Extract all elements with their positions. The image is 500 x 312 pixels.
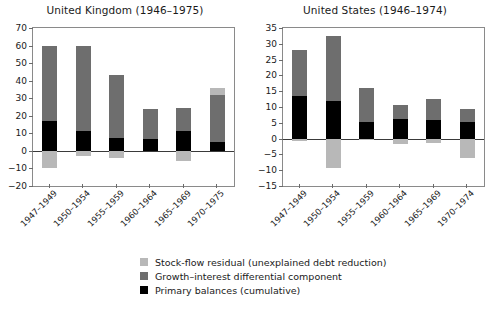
y-axis-tick: [29, 98, 33, 99]
bar-segment-stock-flow-residual[interactable]: [210, 88, 225, 95]
zero-baseline: [33, 151, 234, 152]
x-axis-tick: [149, 184, 150, 188]
y-axis-tick: [29, 46, 33, 47]
bar-segment-primary-balances[interactable]: [42, 121, 57, 151]
y-axis-tick-label: 35: [266, 23, 277, 33]
bar-segment-stock-flow-residual[interactable]: [76, 151, 91, 156]
chart-panel-united-states: United States (1946–1974) 35302520151050…: [250, 0, 500, 250]
bar-segment-growth-interest[interactable]: [460, 109, 475, 121]
bar-group[interactable]: [143, 28, 158, 186]
zero-baseline: [283, 139, 484, 140]
y-axis-tick-label: −15: [258, 181, 277, 191]
bar-group[interactable]: [109, 28, 124, 186]
y-axis-tick: [279, 154, 283, 155]
bar-segment-stock-flow-residual[interactable]: [426, 139, 441, 144]
y-axis-tick-label: 0: [21, 146, 27, 156]
y-axis-tick: [29, 63, 33, 64]
y-axis-tick-label: 50: [16, 58, 27, 68]
bar-segment-primary-balances[interactable]: [393, 119, 408, 138]
bar-segment-primary-balances[interactable]: [210, 142, 225, 151]
bar-segment-primary-balances[interactable]: [176, 131, 191, 151]
x-axis-tick: [82, 184, 83, 188]
bar-group[interactable]: [393, 28, 408, 186]
legend-item-primary[interactable]: Primary balances (cumulative): [140, 283, 470, 297]
y-axis-tick: [29, 133, 33, 134]
panel-title-united-states: United States (1946–1974): [250, 4, 500, 16]
y-axis-tick-label: 5: [271, 118, 277, 128]
x-axis-tick: [466, 184, 467, 188]
bar-group[interactable]: [426, 28, 441, 186]
bar-group[interactable]: [326, 28, 341, 186]
y-axis-tick: [279, 75, 283, 76]
bar-segment-primary-balances[interactable]: [143, 139, 158, 151]
bar-segment-growth-interest[interactable]: [393, 105, 408, 120]
x-axis-labels-united-kingdom: 1947–19491950–19541955–19591960–19641965…: [32, 188, 235, 248]
y-axis-tick-label: −10: [258, 165, 277, 175]
legend-item-residual[interactable]: Stock-flow residual (unexplained debt re…: [140, 255, 470, 269]
y-axis-tick-label: 10: [266, 102, 277, 112]
y-axis-tick: [279, 186, 283, 187]
x-axis-tick: [116, 184, 117, 188]
y-axis-tick: [279, 123, 283, 124]
bar-segment-growth-interest[interactable]: [326, 36, 341, 101]
bar-segment-growth-interest[interactable]: [143, 109, 158, 139]
bar-segment-stock-flow-residual[interactable]: [292, 139, 307, 142]
bar-group[interactable]: [460, 28, 475, 186]
bar-group[interactable]: [176, 28, 191, 186]
bar-segment-stock-flow-residual[interactable]: [326, 139, 341, 169]
y-axis-tick-label: −5: [264, 149, 277, 159]
x-axis-tick: [216, 184, 217, 188]
bar-segment-stock-flow-residual[interactable]: [176, 151, 191, 162]
bar-segment-growth-interest[interactable]: [210, 95, 225, 142]
figure-stacked-bar-charts: United Kingdom (1946–1975) 7060504030201…: [0, 0, 500, 312]
x-axis-tick: [399, 184, 400, 188]
bar-segment-primary-balances[interactable]: [326, 101, 341, 139]
y-axis-tick: [29, 116, 33, 117]
y-axis-tick-label: −20: [8, 181, 27, 191]
bar-group[interactable]: [210, 28, 225, 186]
legend-label-residual: Stock-flow residual (unexplained debt re…: [155, 257, 386, 268]
bar-group[interactable]: [359, 28, 374, 186]
bar-segment-growth-interest[interactable]: [42, 46, 57, 121]
y-axis-tick: [29, 81, 33, 82]
bar-segment-stock-flow-residual[interactable]: [460, 139, 475, 158]
y-axis-tick: [279, 60, 283, 61]
bar-segment-primary-balances[interactable]: [76, 131, 91, 151]
bar-segment-primary-balances[interactable]: [460, 122, 475, 139]
y-axis-tick: [29, 28, 33, 29]
x-axis-tick: [183, 184, 184, 188]
y-axis-tick-label: 20: [16, 111, 27, 121]
bar-group[interactable]: [76, 28, 91, 186]
y-axis-tick-label: 15: [266, 86, 277, 96]
y-axis-tick-label: 40: [16, 76, 27, 86]
y-axis-tick: [29, 168, 33, 169]
bar-segment-primary-balances[interactable]: [109, 138, 124, 151]
x-axis-tick: [332, 184, 333, 188]
x-axis-tick: [433, 184, 434, 188]
bar-segment-stock-flow-residual[interactable]: [109, 151, 124, 158]
y-axis-tick: [29, 186, 33, 187]
y-axis-tick-label: −10: [8, 163, 27, 173]
y-axis-tick-label: 20: [266, 70, 277, 80]
plot-area-united-states: 35302520151050−5−10−15: [282, 27, 485, 187]
bar-segment-growth-interest[interactable]: [176, 108, 191, 131]
bar-group[interactable]: [292, 28, 307, 186]
y-axis-tick-label: 70: [16, 23, 27, 33]
bar-segment-growth-interest[interactable]: [292, 50, 307, 96]
bar-segment-growth-interest[interactable]: [76, 46, 91, 131]
bar-segment-primary-balances[interactable]: [426, 120, 441, 138]
bar-group[interactable]: [42, 28, 57, 186]
bar-segment-primary-balances[interactable]: [292, 96, 307, 139]
bar-segment-stock-flow-residual[interactable]: [42, 151, 57, 169]
y-axis-tick: [279, 170, 283, 171]
bar-segment-stock-flow-residual[interactable]: [393, 139, 408, 144]
legend-item-growth[interactable]: Growth–interest differential component: [140, 269, 470, 283]
bar-segment-growth-interest[interactable]: [426, 99, 441, 120]
bar-segment-growth-interest[interactable]: [109, 75, 124, 137]
bar-segment-primary-balances[interactable]: [359, 122, 374, 139]
y-axis-tick-label: 30: [16, 93, 27, 103]
bar-segment-growth-interest[interactable]: [359, 88, 374, 121]
panel-title-united-kingdom: United Kingdom (1946–1975): [0, 4, 250, 16]
bar-segment-stock-flow-residual[interactable]: [359, 139, 374, 141]
legend-swatch-growth: [140, 272, 148, 280]
